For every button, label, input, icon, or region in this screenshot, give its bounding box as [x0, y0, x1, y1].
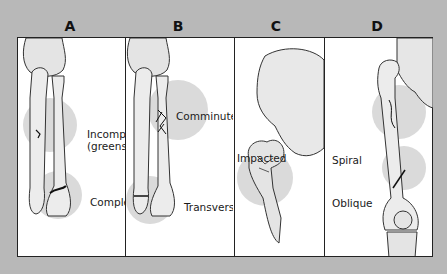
- panel-letter-c: C: [271, 18, 281, 34]
- panel-b: Comminuted Transverse: [126, 38, 233, 256]
- figure-frame: Incomplete (greenstick) Complete Comminu…: [17, 37, 433, 257]
- panel-letter-b: B: [173, 18, 184, 34]
- label-oblique: Oblique: [332, 197, 373, 209]
- label-spiral: Spiral: [332, 154, 362, 166]
- panel-d: Spiral Oblique: [325, 38, 433, 256]
- label-greenstick: (greenstick): [87, 140, 125, 152]
- label-impacted: Impacted: [237, 152, 286, 164]
- label-incomplete: Incomplete: [87, 128, 125, 140]
- label-complete: Complete: [90, 196, 125, 208]
- forearm-bones-illustration-b: [126, 38, 233, 256]
- label-transverse: Transverse: [184, 201, 233, 213]
- femur-illustration-d: [325, 38, 433, 256]
- label-comminuted: Comminuted: [176, 110, 233, 122]
- panel-letter-a: A: [65, 18, 76, 34]
- panel-a: Incomplete (greenstick) Complete: [18, 38, 125, 256]
- panel-c: Impacted: [235, 38, 324, 256]
- hip-illustration-c: [235, 38, 324, 256]
- panel-letter-d: D: [371, 18, 383, 34]
